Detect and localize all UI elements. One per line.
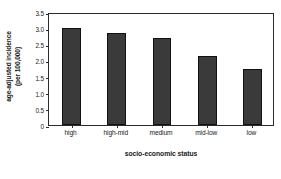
y-tick-mark <box>46 30 49 31</box>
y-tick-label: 1.5 <box>35 74 44 81</box>
bar-mid-low <box>198 56 217 125</box>
y-tick-label: 3.5 <box>35 10 44 17</box>
x-tick-label: mid-low <box>195 129 217 136</box>
y-tick-mark <box>46 94 49 95</box>
y-tick-mark <box>46 127 49 128</box>
bar-low <box>243 69 262 125</box>
x-tick-mark <box>162 125 163 128</box>
y-tick-label: 1.0 <box>35 90 44 97</box>
x-tick-label: high <box>65 129 77 136</box>
y-tick-mark <box>46 14 49 15</box>
x-tick-label: low <box>247 129 257 136</box>
y-axis-title: age-adjusted incidence (per 100,000) <box>0 0 26 133</box>
x-axis-title: socio-economic status <box>48 150 274 157</box>
y-tick-mark <box>46 46 49 47</box>
plot-inner <box>49 14 273 125</box>
y-axis-title-text: age-adjusted incidence (per 100,000) <box>5 31 22 102</box>
y-tick-mark <box>46 110 49 111</box>
bar-high-mid <box>107 33 126 125</box>
y-axis-title-line-1: age-adjusted incidence <box>5 31 14 102</box>
y-axis-tick-labels: 00.51.01.52.02.53.03.5 <box>26 0 46 179</box>
y-tick-label: 0 <box>41 123 44 130</box>
y-tick-label: 0.5 <box>35 106 44 113</box>
y-tick-mark <box>46 62 49 63</box>
y-tick-label: 2.0 <box>35 58 44 65</box>
bar-medium <box>153 38 172 125</box>
plot-area <box>48 13 274 126</box>
y-tick-label: 2.5 <box>35 42 44 49</box>
x-tick-mark <box>72 125 73 128</box>
x-tick-mark <box>252 125 253 128</box>
x-tick-mark <box>207 125 208 128</box>
bar-chart-figure: age-adjusted incidence (per 100,000) 00.… <box>0 0 281 179</box>
x-tick-mark <box>117 125 118 128</box>
x-axis-tick-labels: highhigh-midmediummid-lowlow <box>48 129 274 143</box>
bar-high <box>62 28 81 125</box>
y-tick-label: 3.0 <box>35 26 44 33</box>
x-tick-label: high-mid <box>104 129 129 136</box>
y-axis-title-line-2: (per 100,000) <box>13 31 22 102</box>
y-tick-mark <box>46 78 49 79</box>
x-tick-label: medium <box>150 129 173 136</box>
